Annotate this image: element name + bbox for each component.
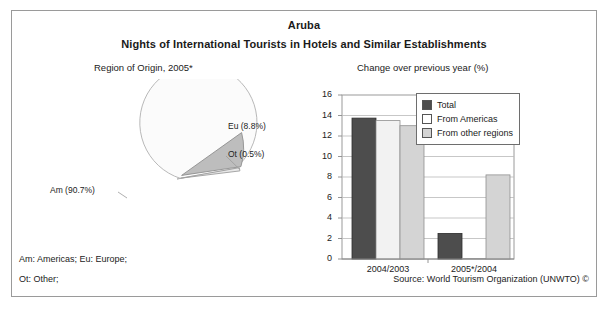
bar-chart-caption: Change over previous year (%) xyxy=(357,62,488,73)
y-tick-8: 8 xyxy=(310,171,332,181)
y-tick-12: 12 xyxy=(310,130,332,140)
legend-label-from-other-regions: From other regions xyxy=(437,128,513,138)
bar-2004-2003-from-other-regions xyxy=(400,126,424,259)
legend-item-total: Total xyxy=(422,98,513,112)
chart-figure: Aruba Nights of International Tourists i… xyxy=(11,10,597,297)
figure-title: Aruba xyxy=(12,19,596,31)
legend-item-from-americas: From Americas xyxy=(422,112,513,126)
bar-2004-2003-from-americas xyxy=(376,121,400,259)
pie-label-other: Ot (0.5%) xyxy=(228,149,264,159)
y-tick-4: 4 xyxy=(310,212,332,222)
bar-2004-2003-total xyxy=(352,118,376,259)
pie-label-americas: Am (90.7%) xyxy=(50,185,95,195)
source-attribution: Source: World Tourism Organization (UNWT… xyxy=(393,274,589,284)
y-tick-14: 14 xyxy=(310,110,332,120)
bar-2005-2004-from-other-regions xyxy=(486,175,510,259)
x-tick-2005-2004: 2005*/2004 xyxy=(434,264,514,274)
pie-chart-caption: Region of Origin, 2005* xyxy=(94,62,193,73)
legend-label-total: Total xyxy=(437,100,456,110)
figure-subtitle: Nights of International Tourists in Hote… xyxy=(12,38,596,50)
bar-chart-legend: Total From Americas From other regions xyxy=(416,93,520,145)
bar-chart: 16 14 12 10 8 6 4 2 0 2004/2003 2005*/20… xyxy=(308,79,590,274)
legend-label-from-americas: From Americas xyxy=(437,114,498,124)
legend-swatch-from-other-regions xyxy=(422,128,432,138)
pie-leader-line-americas xyxy=(118,192,127,198)
y-tick-6: 6 xyxy=(310,192,332,202)
y-tick-0: 0 xyxy=(310,253,332,263)
y-tick-16: 16 xyxy=(310,89,332,99)
bar-2005-2004-total xyxy=(438,233,462,259)
footnote-abbreviations-1: Am: Americas; Eu: Europe; xyxy=(19,254,127,264)
footnote-abbreviations-2: Ot: Other; xyxy=(19,274,59,284)
y-axis-ticks xyxy=(338,95,342,259)
legend-swatch-total xyxy=(422,100,432,110)
legend-item-from-other-regions: From other regions xyxy=(422,126,513,140)
legend-swatch-from-americas xyxy=(422,114,432,124)
y-tick-2: 2 xyxy=(310,233,332,243)
y-tick-10: 10 xyxy=(310,151,332,161)
pie-label-europe: Eu (8.8%) xyxy=(228,121,266,131)
x-tick-2004-2003: 2004/2003 xyxy=(348,264,428,274)
pie-chart: Am (90.7%) Eu (8.8%) Ot (0.5%) xyxy=(32,79,302,259)
pie-chart-svg xyxy=(32,79,302,259)
